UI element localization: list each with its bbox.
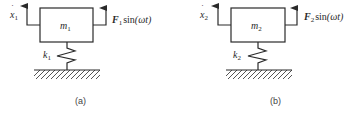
ground-2 <box>222 70 297 80</box>
caption-b: (b) <box>270 96 281 106</box>
force-arrow-1 <box>93 8 106 25</box>
mass-label-2: m2 <box>251 20 262 33</box>
ground-1 <box>30 70 105 80</box>
velocity-arrow-2 <box>218 6 231 25</box>
force-arrow-2 <box>285 8 297 25</box>
velocity-arrow-1 <box>27 6 40 25</box>
spring-mass-diagram: m1 x1 ˙ F1sin(ωt) k1 <box>0 0 358 115</box>
spring-1 <box>57 42 75 70</box>
force-label-2: F2sin(ωt) <box>303 11 344 24</box>
velocity-dot-1: ˙ <box>11 3 14 13</box>
force-label-1: F1sin(ωt) <box>111 14 152 27</box>
spring-label-2: k2 <box>233 49 241 62</box>
panel-a: m1 x1 ˙ F1sin(ωt) k1 <box>9 3 152 106</box>
mass-label-1: m1 <box>60 20 71 33</box>
spring-2 <box>248 42 266 70</box>
spring-label-1: k1 <box>43 49 51 62</box>
panel-b: m2 x2 ˙ F2sin(ωt) k2 <box>199 3 344 106</box>
caption-a: (a) <box>75 96 86 106</box>
velocity-dot-2: ˙ <box>201 3 204 13</box>
